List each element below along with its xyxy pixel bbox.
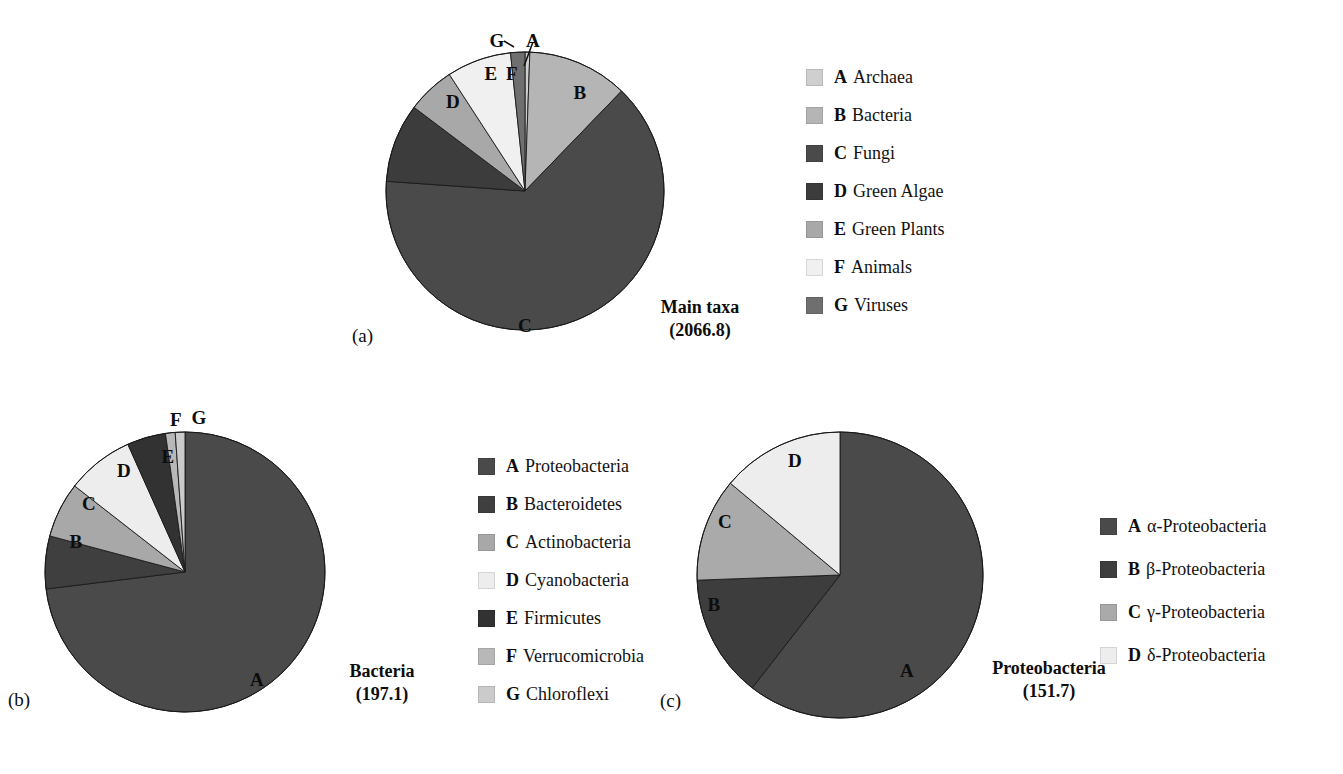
pie-b-slice-label-b: B — [70, 532, 83, 551]
panel-caption-c-line1: Proteobacteria — [992, 657, 1106, 680]
panel-caption-a: Main taxa (2066.8) — [661, 296, 740, 341]
pie-bacteria-svg — [43, 430, 327, 714]
legend-key: F — [834, 257, 845, 278]
legend-label: β-Proteobacteria — [1146, 559, 1265, 580]
legend-bacteria: A Proteobacteria B Bacteroidetes C Actin… — [478, 447, 644, 713]
legend-item[interactable]: B β-Proteobacteria — [1100, 548, 1266, 591]
panel-caption-a-line1: Main taxa — [661, 296, 740, 319]
legend-swatch-archaea — [806, 69, 823, 86]
legend-item[interactable]: D Cyanobacteria — [478, 561, 644, 599]
legend-item[interactable]: D Green Algae — [806, 172, 945, 210]
legend-swatch-green-plants — [806, 221, 823, 238]
panel-caption-b: Bacteria (197.1) — [350, 660, 415, 705]
legend-key: E — [506, 608, 518, 629]
legend-label: Firmicutes — [524, 608, 601, 629]
pie-b-slice-label-c: C — [82, 494, 96, 513]
legend-label: α-Proteobacteria — [1147, 516, 1266, 537]
pie-b-slice-label-g: G — [192, 408, 207, 427]
legend-item[interactable]: C Fungi — [806, 134, 945, 172]
legend-item[interactable]: A Proteobacteria — [478, 447, 644, 485]
legend-proteobacteria: A α-Proteobacteria B β-Proteobacteria C … — [1100, 505, 1266, 677]
panel-caption-b-line2: (197.1) — [350, 683, 415, 706]
pie-a-slice-label-e: E — [485, 64, 498, 83]
legend-key: C — [834, 143, 847, 164]
legend-key: D — [506, 570, 519, 591]
legend-item[interactable]: G Chloroflexi — [478, 675, 644, 713]
legend-swatch-verrucomicrobia — [478, 648, 495, 665]
panel-bacteria: A B C D E F G (b) Bacteria (197.1) — [0, 395, 470, 774]
legend-key: D — [1128, 645, 1141, 666]
panel-caption-b-line1: Bacteria — [350, 660, 415, 683]
pie-chart-main-taxa — [384, 50, 666, 332]
legend-swatch-actinobacteria — [478, 534, 495, 551]
legend-item[interactable]: B Bacteria — [806, 96, 945, 134]
legend-item[interactable]: A α-Proteobacteria — [1100, 505, 1266, 548]
legend-key: E — [834, 219, 846, 240]
legend-item[interactable]: C Actinobacteria — [478, 523, 644, 561]
legend-label: Actinobacteria — [525, 532, 631, 553]
legend-key: C — [506, 532, 519, 553]
figure-root: A B C D E F G (a) Main taxa (2066.8) A A… — [0, 0, 1343, 774]
legend-key: G — [834, 295, 848, 316]
legend-swatch-proteobacteria — [478, 458, 495, 475]
legend-label: δ-Proteobacteria — [1147, 645, 1265, 666]
legend-swatch-bacteria — [806, 107, 823, 124]
pie-c-slice-label-c: C — [718, 512, 732, 531]
legend-label: Bacteroidetes — [524, 494, 622, 515]
legend-main-taxa: A Archaea B Bacteria C Fungi D Green Alg… — [806, 58, 945, 324]
panel-letter-c: (c) — [660, 690, 681, 712]
pie-a-slice-label-g: G — [490, 31, 505, 50]
pie-chart-bacteria — [43, 430, 327, 714]
pie-a-slice-label-d: D — [446, 92, 460, 111]
panel-main-taxa: A B C D E F G (a) Main taxa (2066.8) — [0, 0, 790, 370]
legend-key: F — [506, 646, 517, 667]
legend-label: Green Algae — [853, 181, 943, 202]
legend-key: B — [1128, 559, 1140, 580]
panel-caption-c-line2: (151.7) — [992, 680, 1106, 703]
pie-b-slice-label-a: A — [250, 670, 264, 689]
legend-label: Fungi — [853, 143, 895, 164]
legend-label: Viruses — [854, 295, 908, 316]
pie-c-slice-label-b: B — [708, 595, 721, 614]
legend-key: B — [834, 105, 846, 126]
legend-item[interactable]: F Verrucomicrobia — [478, 637, 644, 675]
legend-item[interactable]: E Green Plants — [806, 210, 945, 248]
legend-swatch-bacteroidetes — [478, 496, 495, 513]
legend-label: Chloroflexi — [526, 684, 609, 705]
legend-label: Bacteria — [852, 105, 912, 126]
legend-key: A — [1128, 516, 1141, 537]
legend-item[interactable]: G Viruses — [806, 286, 945, 324]
panel-letter-b: (b) — [8, 689, 30, 711]
legend-item[interactable]: F Animals — [806, 248, 945, 286]
pie-a-slice-label-b: B — [574, 83, 587, 102]
legend-item[interactable]: C γ-Proteobacteria — [1100, 591, 1266, 634]
legend-item[interactable]: B Bacteroidetes — [478, 485, 644, 523]
pie-c-slice-label-a: A — [900, 661, 914, 680]
legend-swatch-fungi — [806, 145, 823, 162]
pie-b-slice-label-d: D — [117, 461, 131, 480]
pie-b-slice-label-e: E — [162, 447, 175, 466]
legend-key: D — [834, 181, 847, 202]
legend-label: Proteobacteria — [525, 456, 629, 477]
legend-swatch-animals — [806, 259, 823, 276]
legend-swatch-green-algae — [806, 183, 823, 200]
legend-key: G — [506, 684, 520, 705]
pie-proteobacteria-svg — [695, 430, 985, 720]
pie-b-slice-label-f: F — [170, 410, 182, 429]
legend-label: Verrucomicrobia — [523, 646, 644, 667]
panel-caption-c: Proteobacteria (151.7) — [992, 657, 1106, 702]
legend-swatch-firmicutes — [478, 610, 495, 627]
pie-a-slice-label-a: A — [526, 31, 540, 50]
legend-swatch-cyanobacteria — [478, 572, 495, 589]
legend-item[interactable]: D δ-Proteobacteria — [1100, 634, 1266, 677]
legend-swatch-gamma-proteobacteria — [1100, 604, 1117, 621]
panel-proteobacteria: A B C D (c) Proteobacteria (151.7) — [660, 410, 1110, 774]
legend-swatch-chloroflexi — [478, 686, 495, 703]
pie-main-taxa-svg — [384, 50, 666, 332]
legend-item[interactable]: E Firmicutes — [478, 599, 644, 637]
legend-swatch-delta-proteobacteria — [1100, 647, 1117, 664]
panel-caption-a-line2: (2066.8) — [661, 319, 740, 342]
legend-key: A — [506, 456, 519, 477]
legend-swatch-viruses — [806, 297, 823, 314]
legend-item[interactable]: A Archaea — [806, 58, 945, 96]
